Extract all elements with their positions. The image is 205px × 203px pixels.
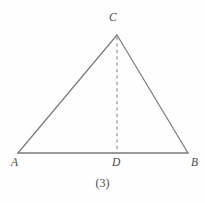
vertex-label-d: D <box>112 157 120 169</box>
triangle-diagram-svg <box>0 0 205 203</box>
vertex-label-b: B <box>191 157 198 169</box>
geometry-figure: C A D B (3) <box>0 0 205 203</box>
vertex-label-a: A <box>11 157 18 169</box>
segment-cb <box>117 35 188 153</box>
segment-ac <box>18 35 117 153</box>
figure-caption: (3) <box>0 177 205 189</box>
vertex-label-c: C <box>109 12 117 24</box>
